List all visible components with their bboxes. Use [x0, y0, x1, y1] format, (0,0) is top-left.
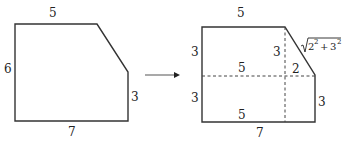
right-bottom-label: 7: [256, 126, 264, 140]
left-right-label: 3: [131, 90, 139, 104]
inner-horizontal-label: 2: [292, 62, 300, 76]
right-right-label: 3: [318, 95, 326, 109]
exponent-a: 2: [314, 38, 318, 46]
exponent-b: 2: [337, 38, 341, 46]
plus-sign: +: [320, 41, 328, 52]
left-top-label: 5: [49, 6, 57, 20]
arrow-right-icon: [145, 72, 180, 78]
right-top-label: 5: [237, 6, 245, 20]
left-bottom-label: 7: [68, 125, 76, 139]
right-figure: 5 3 3 3 5 2 5 3 7 2 2 + 3 2: [191, 6, 341, 140]
radicand-b: 3: [330, 41, 336, 52]
right-left-lower-label: 3: [191, 91, 199, 105]
inner-vertical-label: 3: [273, 45, 281, 59]
left-left-label: 6: [4, 62, 12, 76]
inner-top-middle-label: 5: [238, 61, 246, 75]
hypotenuse-formula: 2 2 + 3 2: [301, 38, 341, 52]
right-left-upper-label: 3: [191, 45, 199, 59]
diagram-canvas: 5 6 3 7 5 3 3 3 5 2 5 3 7 2 2 + 3 2: [0, 0, 346, 142]
left-pentagon: [15, 24, 128, 121]
inner-bottom-middle-label: 5: [238, 108, 246, 122]
left-figure: 5 6 3 7: [4, 6, 139, 139]
